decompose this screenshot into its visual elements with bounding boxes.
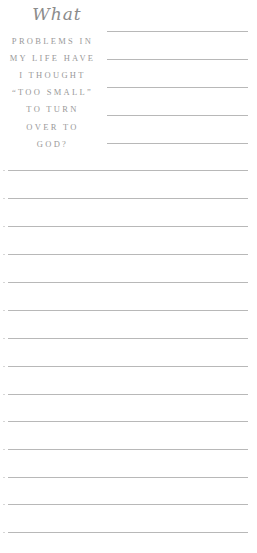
writing-line-full[interactable] <box>8 254 248 255</box>
writing-line-full[interactable] <box>8 532 248 533</box>
line-tick-mark <box>3 338 5 339</box>
writing-line-full[interactable] <box>8 226 248 227</box>
writing-line-full[interactable] <box>8 366 248 367</box>
prompt-line-7: GOD? <box>0 139 105 149</box>
prompt-line-5: TO TURN <box>0 104 105 114</box>
writing-line-full[interactable] <box>8 504 248 505</box>
writing-line-full[interactable] <box>8 282 248 283</box>
writing-line-full[interactable] <box>8 338 248 339</box>
prompt-line-1: PROBLEMS IN <box>0 36 105 46</box>
writing-line-full[interactable] <box>8 310 248 311</box>
writing-line-full[interactable] <box>8 170 248 171</box>
line-tick-mark <box>3 421 5 422</box>
line-tick-mark <box>3 477 5 478</box>
line-tick-mark <box>3 366 5 367</box>
line-tick-mark <box>3 532 5 533</box>
line-tick-mark <box>3 449 5 450</box>
writing-line-short[interactable] <box>107 115 248 116</box>
prompt-line-4: “TOO SMALL” <box>0 87 105 97</box>
writing-line-short[interactable] <box>107 143 248 144</box>
writing-line-full[interactable] <box>8 421 248 422</box>
writing-line-short[interactable] <box>107 59 248 60</box>
writing-line-full[interactable] <box>8 394 248 395</box>
writing-line-full[interactable] <box>8 477 248 478</box>
line-tick-mark <box>3 170 5 171</box>
writing-line-short[interactable] <box>107 87 248 88</box>
line-tick-mark <box>3 394 5 395</box>
line-tick-mark <box>3 310 5 311</box>
prompt-script-word: What <box>0 4 114 24</box>
line-tick-mark <box>3 504 5 505</box>
journal-page: What PROBLEMS IN MY LIFE HAVE I THOUGHT … <box>0 0 257 553</box>
prompt-line-2: MY LIFE HAVE <box>0 53 105 63</box>
prompt-line-3: I THOUGHT <box>0 70 105 80</box>
line-tick-mark <box>3 282 5 283</box>
writing-line-full[interactable] <box>8 449 248 450</box>
writing-line-short[interactable] <box>107 31 248 32</box>
writing-line-full[interactable] <box>8 198 248 199</box>
line-tick-mark <box>3 226 5 227</box>
line-tick-mark <box>3 198 5 199</box>
line-tick-mark <box>3 254 5 255</box>
prompt-line-6: OVER TO <box>0 122 105 132</box>
